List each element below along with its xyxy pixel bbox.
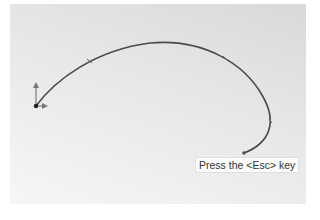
esc-key-tooltip: Press the <Esc> key bbox=[195, 157, 299, 173]
spline-end-point[interactable] bbox=[242, 151, 246, 155]
spline-curve[interactable] bbox=[36, 42, 270, 153]
spline-start-point[interactable] bbox=[34, 104, 38, 108]
spline-point-markers[interactable] bbox=[87, 56, 272, 123]
sketch-area[interactable] bbox=[0, 0, 320, 220]
